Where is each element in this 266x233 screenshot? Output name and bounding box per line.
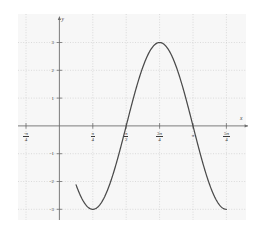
y-tick-label-neg2: -2 <box>43 179 54 184</box>
x-axis-label: x <box>240 116 242 122</box>
x-tick-numerator: π <box>192 133 195 138</box>
x-tick-label-pi-over-4: π 4 <box>85 131 101 143</box>
y-tick-label-3: 3 <box>45 40 54 45</box>
y-tick-label-neg3: -3 <box>43 207 54 212</box>
x-tick-label-pi: π <box>185 133 201 138</box>
x-tick-denominator: 4 <box>23 137 29 142</box>
y-tick-label-neg1: -1 <box>43 151 54 156</box>
x-tick-denominator: 4 <box>156 137 163 142</box>
graph-canvas <box>0 0 266 233</box>
x-tick-label-pi-over-2: π 2 <box>118 131 134 143</box>
x-tick-label-3pi-over-4: 3π 4 <box>152 131 168 143</box>
y-axis-label: y <box>62 17 64 23</box>
figure-container: 3 2 1 -1 -2 -3 -π 4 π 4 π 2 3π 4 π 5π 4 <box>0 0 266 233</box>
x-tick-denominator: 4 <box>223 137 230 142</box>
x-tick-denominator: 2 <box>124 137 129 142</box>
x-tick-label-5pi-over-4: 5π 4 <box>218 131 234 143</box>
y-tick-label-2: 2 <box>45 68 54 73</box>
x-axis-arrow <box>245 124 248 127</box>
x-tick-denominator: 4 <box>91 137 96 142</box>
y-tick-label-1: 1 <box>45 96 54 101</box>
x-tick-label-neg-pi-over-4: -π 4 <box>18 131 34 143</box>
